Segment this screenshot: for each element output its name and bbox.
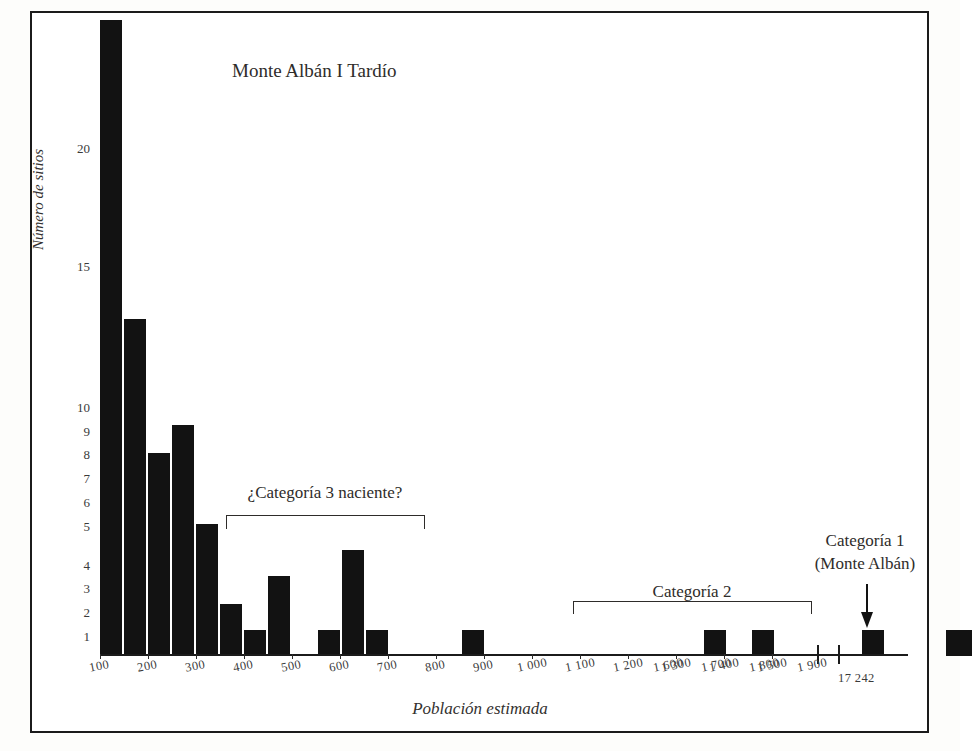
down-arrow-icon: [861, 584, 873, 628]
y-tick-15: 15: [77, 259, 90, 275]
annotation-cat3-bracket: [226, 515, 425, 529]
y-tick-7: 7: [84, 471, 91, 487]
bar-550: [318, 630, 340, 656]
y-tick-10: 10: [77, 400, 90, 416]
bar-350: [220, 604, 242, 656]
annotation-cat2-bracket: [573, 601, 812, 614]
annotation-cat2-label: Categoría 2: [572, 582, 812, 602]
annotation-cat1-label: Categoría 1 (Monte Albán): [790, 529, 940, 575]
arrow-head: [861, 612, 873, 628]
bar-150: [124, 319, 146, 656]
y-axis-ticks: 20 15 10 9 8 7 6 5 4 3 2 1: [52, 0, 90, 751]
bar-1350: [704, 630, 726, 656]
bar-17242: [946, 630, 972, 656]
annotation-cat3-label: ¿Categoría 3 naciente?: [225, 483, 425, 503]
axis-break-right: [838, 645, 840, 664]
bar-1450: [752, 630, 774, 656]
x-tick-17242: 17 242: [838, 671, 875, 686]
bar-450: [268, 576, 290, 656]
annotation-cat1-line1: Categoría 1: [790, 529, 940, 552]
x-axis-line: [100, 654, 908, 656]
y-tick-8: 8: [84, 447, 91, 463]
bar-650: [366, 630, 388, 656]
annotation-cat1-line2: (Monte Albán): [790, 552, 940, 575]
y-axis-title: Número de sitios: [30, 149, 47, 250]
y-tick-2: 2: [84, 605, 91, 621]
y-tick-3: 3: [84, 581, 91, 597]
y-tick-1: 1: [84, 629, 91, 645]
x-axis-title: Población estimada: [0, 699, 960, 719]
bar-300: [196, 524, 218, 656]
y-tick-5: 5: [84, 519, 91, 535]
bar-600: [342, 550, 364, 656]
plot-area: [100, 18, 908, 656]
bar-100: [100, 20, 122, 656]
y-tick-6: 6: [84, 495, 91, 511]
bar-850: [462, 630, 484, 656]
bar-400: [244, 630, 266, 656]
y-tick-4: 4: [84, 558, 91, 574]
bar-250: [172, 425, 194, 656]
bar-1880: [862, 630, 884, 656]
y-tick-20: 20: [77, 141, 90, 157]
bar-200: [148, 453, 170, 656]
y-tick-9: 9: [84, 424, 91, 440]
